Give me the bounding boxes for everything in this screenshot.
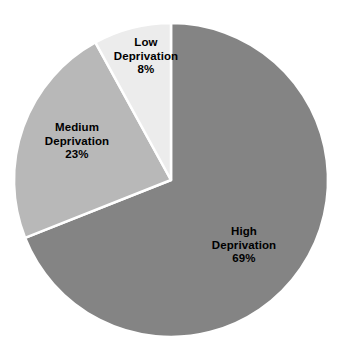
pie-chart-canvas <box>0 0 342 364</box>
pie-slice-group <box>14 23 328 337</box>
pie-chart: High Deprivation 69% Medium Deprivation … <box>0 0 342 364</box>
